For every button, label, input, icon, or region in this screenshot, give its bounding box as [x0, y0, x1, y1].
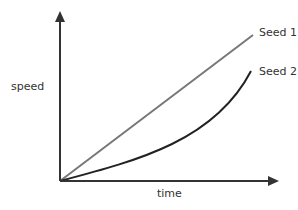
seed-2-curve: [60, 71, 251, 181]
x-axis-label: time: [157, 187, 182, 200]
seed-1-label: Seed 1: [259, 26, 297, 39]
y-axis-arrow-icon: [55, 11, 65, 22]
seed-2-label: Seed 2: [259, 65, 297, 78]
x-axis-arrow-icon: [268, 176, 279, 186]
y-axis-label: speed: [11, 80, 44, 93]
speed-time-diagram: [0, 0, 298, 210]
